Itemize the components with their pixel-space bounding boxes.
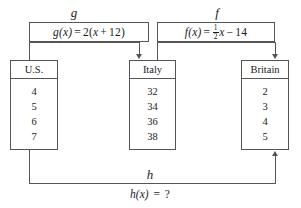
value-item: 38 (147, 129, 158, 144)
h-formula-value: ? (165, 188, 170, 200)
country-header-italy: Italy (130, 61, 175, 79)
f-formula-minus: − (225, 26, 236, 38)
value-item: 6 (31, 114, 36, 129)
connector-f-left-stem (157, 42, 158, 60)
value-item: 36 (147, 114, 158, 129)
formula-h: h(x) = ? (100, 188, 200, 200)
function-label-f: f (203, 6, 231, 19)
value-item: 5 (262, 129, 267, 144)
country-header-britain: Britain (242, 61, 288, 79)
value-item: 4 (262, 114, 267, 129)
function-label-g: g (60, 6, 88, 19)
connector-g-arrowhead (136, 54, 142, 59)
g-formula-coefficient: 2( (83, 26, 93, 38)
country-values-us: 4 5 6 7 (11, 79, 57, 144)
country-values-italy: 32 34 36 38 (130, 79, 175, 144)
h-formula-lhs: h(x) (130, 188, 149, 200)
fraction-denominator: 2 (213, 32, 219, 41)
fraction-numerator: 1 (213, 24, 219, 32)
f-formula-fraction: 1 2 (213, 24, 219, 41)
value-item: 7 (31, 129, 36, 144)
country-header-us: U.S. (11, 61, 57, 79)
f-formula-equals: = (202, 26, 213, 38)
value-item: 2 (262, 84, 267, 99)
g-formula-plus: + (98, 26, 109, 38)
value-item: 3 (262, 99, 267, 114)
value-item: 4 (31, 84, 36, 99)
country-values-britain: 2 3 4 5 (242, 79, 288, 144)
connector-f-arrowhead (272, 54, 278, 59)
f-formula-constant: 14 (235, 26, 247, 38)
f-formula-lhs: f(x) (185, 26, 202, 38)
function-label-h: h (136, 168, 164, 181)
h-formula-equals: = (151, 188, 162, 200)
country-box-us: U.S. 4 5 6 7 (10, 60, 58, 150)
formula-box-g: g(x) = 2( x + 12) (29, 22, 149, 42)
g-formula-equals: = (72, 26, 83, 38)
connector-h-right-stem (275, 156, 276, 183)
function-composition-diagram: g g(x) = 2( x + 12) f f(x) = 1 2 x − 14 … (0, 0, 301, 208)
g-formula-constant: 12) (109, 26, 125, 38)
g-formula-lhs: g(x) (53, 26, 72, 38)
value-item: 32 (147, 84, 158, 99)
value-item: 5 (31, 99, 36, 114)
country-box-italy: Italy 32 34 36 38 (129, 60, 176, 150)
connector-g-horizontal (29, 42, 139, 43)
connector-h-horizontal (29, 183, 276, 184)
connector-h-left-stem (29, 150, 30, 183)
connector-f-horizontal (157, 42, 275, 43)
formula-box-f: f(x) = 1 2 x − 14 (157, 22, 275, 42)
country-box-britain: Britain 2 3 4 5 (241, 60, 289, 150)
value-item: 34 (147, 99, 158, 114)
connector-h-arrowhead (272, 151, 278, 156)
connector-g-left-stem (29, 42, 30, 60)
